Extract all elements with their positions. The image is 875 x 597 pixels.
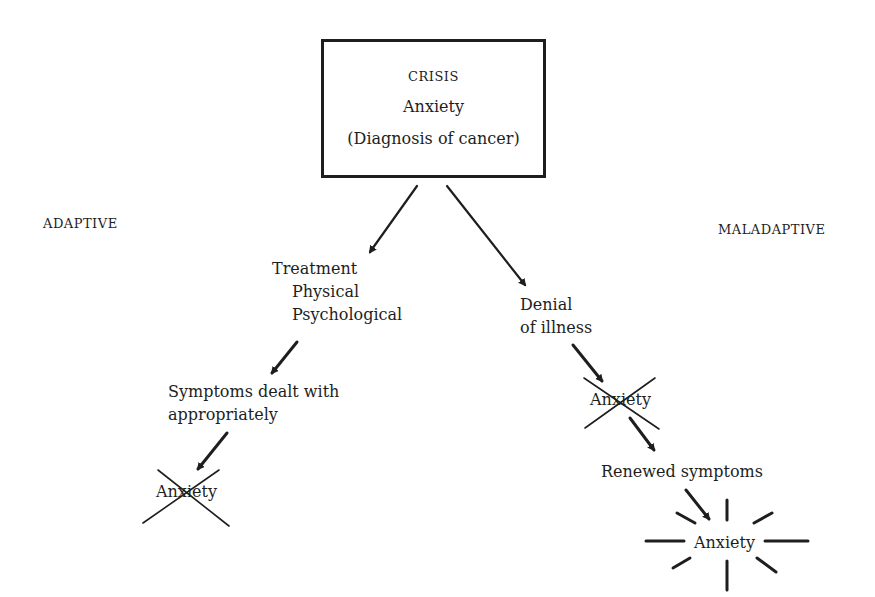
arrow-renewed-to-burst: [686, 490, 709, 519]
anxiety-burst-rays: [646, 500, 808, 590]
arrow-crisis-to-denial: [447, 186, 525, 285]
arrow-symptoms-to-anxiety: [198, 433, 227, 469]
cross-out-adaptive-2: [143, 470, 219, 523]
cross-out-adaptive-1: [158, 470, 229, 526]
arrow-denial-to-anxiety: [573, 345, 602, 381]
arrow-crisis-to-treatment: [370, 186, 417, 252]
diagram-lines: [0, 0, 875, 597]
arrow-treatment-to-symptoms: [272, 342, 297, 373]
